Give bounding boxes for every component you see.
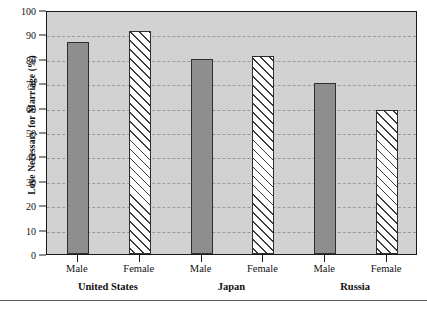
x-tick-label: Male bbox=[313, 263, 335, 274]
gridline bbox=[47, 183, 416, 184]
bar-russia-female bbox=[376, 110, 398, 254]
y-tick-label: 100 bbox=[6, 6, 36, 17]
y-tick-mark bbox=[39, 230, 46, 231]
y-tick-label: 20 bbox=[6, 201, 36, 212]
x-group-label-japan: Japan bbox=[218, 281, 245, 292]
bar-japan-male bbox=[191, 59, 213, 254]
y-tick-mark bbox=[39, 157, 46, 158]
y-tick-label: 50 bbox=[6, 128, 36, 139]
y-tick-mark bbox=[39, 206, 46, 207]
gridline bbox=[47, 61, 416, 62]
y-tick-label: 10 bbox=[6, 225, 36, 236]
bottom-divider bbox=[0, 300, 427, 301]
y-tick-mark bbox=[39, 59, 46, 60]
y-tick-mark bbox=[39, 133, 46, 134]
y-tick-mark bbox=[39, 255, 46, 256]
x-tick-label: Male bbox=[66, 263, 88, 274]
y-tick-label: 0 bbox=[6, 250, 36, 261]
y-tick-mark bbox=[39, 84, 46, 85]
y-tick-mark bbox=[39, 11, 46, 12]
bar-russia-male bbox=[314, 83, 336, 254]
x-tick-mark bbox=[262, 255, 263, 262]
x-tick-mark bbox=[201, 255, 202, 262]
bar-japan-female bbox=[252, 56, 274, 254]
x-tick-mark bbox=[324, 255, 325, 262]
plot-area bbox=[46, 11, 417, 255]
y-tick-label: 90 bbox=[6, 30, 36, 41]
y-tick-label: 80 bbox=[6, 54, 36, 65]
y-tick-label: 60 bbox=[6, 103, 36, 114]
x-tick-mark bbox=[139, 255, 140, 262]
y-tick-label: 30 bbox=[6, 176, 36, 187]
y-tick-label: 40 bbox=[6, 152, 36, 163]
gridline bbox=[47, 110, 416, 111]
y-tick-label: 70 bbox=[6, 79, 36, 90]
x-tick-label: Male bbox=[190, 263, 212, 274]
bar-united-states-male bbox=[67, 42, 89, 254]
x-tick-label: Female bbox=[123, 263, 154, 274]
gridline bbox=[47, 134, 416, 135]
y-tick-mark bbox=[39, 181, 46, 182]
bar-chart-figure: Love Necessary for Marriage (%) 01020304… bbox=[0, 0, 427, 310]
x-tick-label: Female bbox=[371, 263, 402, 274]
gridline bbox=[47, 207, 416, 208]
x-tick-mark bbox=[77, 255, 78, 262]
gridline bbox=[47, 85, 416, 86]
y-axis-ticks: 0102030405060708090100 bbox=[0, 0, 46, 310]
y-tick-mark bbox=[39, 35, 46, 36]
x-tick-label: Female bbox=[247, 263, 278, 274]
bar-united-states-female bbox=[129, 31, 151, 254]
x-group-label-russia: Russia bbox=[340, 281, 370, 292]
x-tick-mark bbox=[386, 255, 387, 262]
x-group-label-united-states: United States bbox=[78, 281, 138, 292]
gridline bbox=[47, 158, 416, 159]
y-tick-mark bbox=[39, 108, 46, 109]
gridline bbox=[47, 232, 416, 233]
gridline bbox=[47, 36, 416, 37]
